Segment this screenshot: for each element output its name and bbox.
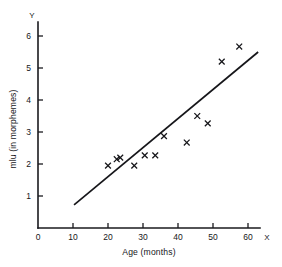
data-point-marker — [236, 44, 242, 50]
x-tick-label: 40 — [173, 232, 183, 242]
scatter-plot: 0102030405060123456 YXAge (months)mlu (i… — [0, 0, 282, 267]
data-point-marker — [194, 113, 200, 119]
y-axis-title: mlu (in morphemes) — [8, 89, 18, 168]
axis-titles: YXAge (months)mlu (in morphemes) — [8, 11, 270, 257]
y-tick-label: 2 — [26, 159, 31, 169]
chart-figure: 0102030405060123456 YXAge (months)mlu (i… — [0, 0, 282, 267]
data-points — [105, 44, 242, 169]
x-tick-label: 10 — [68, 232, 78, 242]
data-point-marker — [142, 152, 148, 158]
data-point-marker — [131, 163, 137, 169]
y-axis-letter: Y — [29, 11, 35, 20]
data-point-marker — [184, 140, 190, 146]
x-axis-letter: X — [264, 233, 270, 242]
data-point-marker — [205, 120, 211, 126]
x-tick-label: 0 — [36, 232, 41, 242]
y-tick-label: 5 — [26, 63, 31, 73]
x-tick-label: 20 — [103, 232, 113, 242]
data-point-marker — [152, 152, 158, 158]
axis-tick-labels: 0102030405060123456 — [26, 31, 253, 242]
y-tick-label: 3 — [26, 127, 31, 137]
x-tick-label: 30 — [138, 232, 148, 242]
x-tick-label: 50 — [208, 232, 218, 242]
regression-line — [74, 52, 258, 205]
y-tick-label: 6 — [26, 31, 31, 41]
y-tick-label: 4 — [26, 95, 31, 105]
y-tick-label: 1 — [26, 191, 31, 201]
data-point-marker — [219, 59, 225, 65]
regression-line-segment — [74, 52, 258, 205]
axis-ticks — [38, 36, 248, 228]
data-point-marker — [105, 163, 111, 169]
axes — [38, 22, 260, 228]
data-point-marker — [161, 133, 167, 139]
x-axis-title: Age (months) — [122, 247, 175, 257]
x-tick-label: 60 — [243, 232, 253, 242]
